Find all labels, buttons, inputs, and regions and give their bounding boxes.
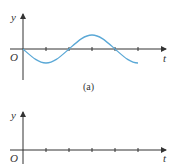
figure-b: y t O <box>10 109 167 164</box>
figure-caption: (a) <box>83 81 94 93</box>
origin-label: O <box>10 51 18 63</box>
y-axis-label: y <box>10 11 16 23</box>
origin-label: O <box>10 152 18 164</box>
y-axis-label: y <box>10 109 16 121</box>
t-axis-label: t <box>163 52 167 64</box>
figure-a: y t O (a) <box>10 11 167 93</box>
figure-canvas: y t O (a) y t O <box>0 0 180 165</box>
t-axis-label: t <box>163 152 167 164</box>
